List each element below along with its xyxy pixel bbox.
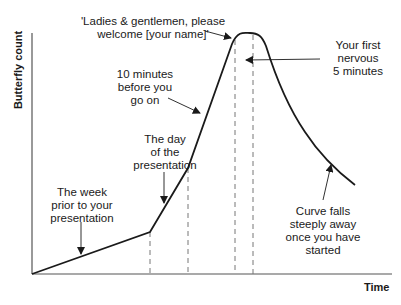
annotation-peak: 'Ladies & gentlemen, please welcome [you… [78,15,228,41]
butterfly-chart: Butterfly count Time 'Ladies & gentlemen… [0,0,401,305]
y-axis-label: Butterfly count [12,31,25,109]
annotation-week-prior: The week prior to your presentation [40,186,124,225]
arrow-first-minutes [246,59,320,60]
annotation-day-of: The day of the presentation [125,133,205,172]
annotation-falls: Curve falls steeply away once you have s… [283,205,363,257]
annotation-first-minutes: Your first nervous 5 minutes [323,39,393,78]
x-axis-label: Time [364,281,389,294]
annotation-ten-minutes: 10 minutes before you go on [110,68,180,107]
arrow-falls [323,165,331,200]
